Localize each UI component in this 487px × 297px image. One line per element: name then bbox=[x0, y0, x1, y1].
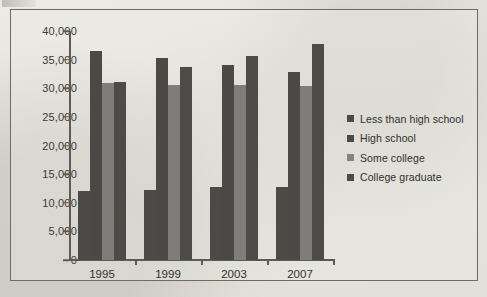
bar bbox=[168, 85, 180, 260]
bar bbox=[180, 67, 192, 260]
bar bbox=[222, 65, 234, 260]
legend-swatch-icon bbox=[347, 154, 354, 161]
x-axis-tick-mark bbox=[201, 259, 203, 265]
bar bbox=[78, 191, 90, 260]
legend-swatch-icon bbox=[347, 174, 354, 181]
bar bbox=[300, 86, 312, 260]
bar bbox=[90, 51, 102, 260]
bar bbox=[156, 58, 168, 260]
legend-item[interactable]: Some college bbox=[347, 148, 487, 168]
x-axis-tick-mark bbox=[333, 259, 335, 265]
legend-item-label: College graduate bbox=[360, 171, 442, 183]
x-axis-tick-label: 1999 bbox=[155, 268, 181, 280]
chart-legend: Less than high schoolHigh schoolSome col… bbox=[347, 109, 487, 187]
legend-item[interactable]: High school bbox=[347, 129, 487, 149]
x-axis-tick-label: 1995 bbox=[89, 268, 115, 280]
bar bbox=[312, 44, 324, 260]
bar bbox=[288, 72, 300, 260]
x-axis-tick-mark bbox=[267, 259, 269, 265]
x-axis-tick-mark bbox=[135, 259, 137, 265]
bar bbox=[144, 190, 156, 260]
legend-item[interactable]: College graduate bbox=[347, 168, 487, 188]
bar bbox=[234, 85, 246, 260]
chart-frame: 05,00010,00015,00020,00025,00030,00035,0… bbox=[10, 9, 478, 281]
legend-item-label: High school bbox=[360, 132, 416, 144]
bar bbox=[210, 187, 222, 260]
scan-artifact-top-left bbox=[2, 0, 36, 7]
legend-item-label: Some college bbox=[360, 152, 425, 164]
legend-item-label: Less than high school bbox=[360, 113, 464, 125]
bar bbox=[102, 83, 114, 260]
bar bbox=[276, 187, 288, 260]
x-axis-tick-label: 2003 bbox=[221, 268, 247, 280]
bar bbox=[114, 82, 126, 260]
legend-swatch-icon bbox=[347, 115, 354, 122]
x-axis-tick-label: 2007 bbox=[287, 268, 313, 280]
bar bbox=[246, 56, 258, 260]
legend-item[interactable]: Less than high school bbox=[347, 109, 487, 129]
y-axis-line bbox=[69, 31, 71, 260]
legend-swatch-icon bbox=[347, 135, 354, 142]
